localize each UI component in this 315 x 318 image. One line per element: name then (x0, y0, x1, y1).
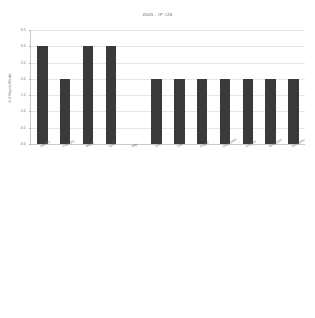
bar-november[interactable] (265, 79, 276, 144)
y-tick-label: 2.0 (21, 77, 26, 81)
y-tick-label: 1.0 (21, 109, 26, 113)
bar-october[interactable] (243, 79, 254, 144)
bar-march[interactable] (83, 46, 94, 144)
y-tick-label: 0.5 (21, 126, 26, 130)
chart-top-y-axis-label: # of Reports/Month (8, 65, 12, 111)
bar-december[interactable] (288, 79, 299, 144)
chart-top-title: 2005 - IP #26 (0, 12, 315, 17)
bar-february[interactable] (60, 79, 71, 144)
y-tick-label: 1.5 (21, 93, 26, 97)
bar-july[interactable] (174, 79, 185, 144)
figure-container: 2005 - IP #26 # of Reports/Month 0.00.51… (0, 0, 315, 318)
y-tick-label: 2.5 (21, 61, 26, 65)
bar-september[interactable] (220, 79, 231, 144)
x-tick-label-july: July (176, 142, 183, 148)
y-tick-mark (29, 144, 31, 145)
x-tick-label-april: April (108, 142, 116, 149)
bar-june[interactable] (151, 79, 162, 144)
chart-top-plot-area: 0.00.51.01.52.02.53.03.5JanuaryFebruaryM… (30, 30, 305, 145)
x-tick-label-may: May (131, 142, 138, 148)
bar-april[interactable] (106, 46, 117, 144)
y-tick-label: 3.0 (21, 44, 26, 48)
y-tick-label: 3.5 (21, 28, 26, 32)
chart-bottom: 2005 - IP #19 # of Reports/Month month 0… (0, 159, 315, 318)
chart-top: 2005 - IP #26 # of Reports/Month 0.00.51… (0, 0, 315, 159)
bar-january[interactable] (37, 46, 48, 144)
bar-august[interactable] (197, 79, 208, 144)
bar-series (31, 30, 305, 144)
y-tick-label: 0.0 (21, 142, 26, 146)
